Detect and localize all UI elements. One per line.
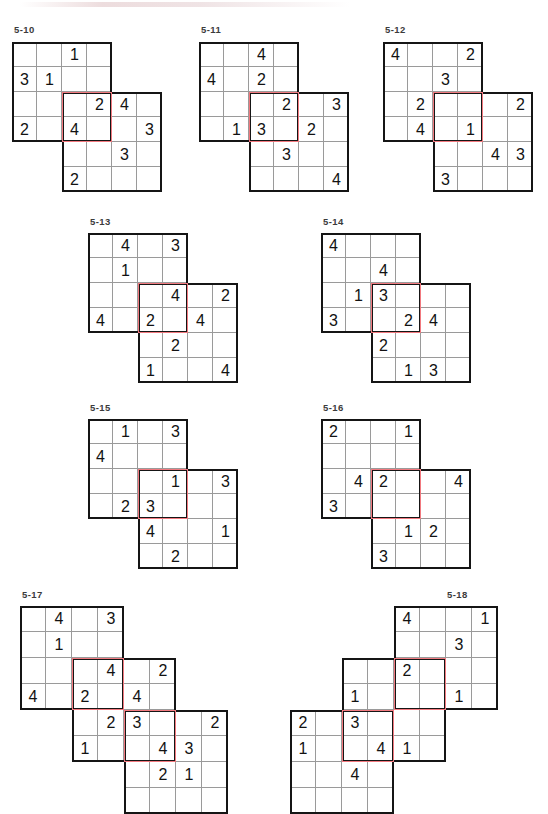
- grid-cell[interactable]: [420, 606, 446, 632]
- grid-cell[interactable]: [299, 167, 324, 192]
- grid-cell[interactable]: [124, 658, 150, 684]
- grid-cell[interactable]: [20, 684, 46, 710]
- grid-cell[interactable]: [346, 258, 371, 283]
- grid-cell[interactable]: [163, 469, 188, 494]
- grid-cell[interactable]: [88, 494, 113, 519]
- grid-cell[interactable]: [188, 333, 213, 358]
- grid-cell[interactable]: [458, 117, 483, 142]
- grid-cell[interactable]: [249, 92, 274, 117]
- grid-cell[interactable]: [321, 283, 346, 308]
- grid-cell[interactable]: [213, 333, 238, 358]
- grid-cell[interactable]: [124, 762, 150, 788]
- grid-cell[interactable]: [396, 308, 421, 333]
- grid-cell[interactable]: [87, 92, 112, 117]
- grid-cell[interactable]: [316, 788, 342, 814]
- grid-cell[interactable]: [458, 142, 483, 167]
- grid-cell[interactable]: [72, 606, 98, 632]
- grid-cell[interactable]: [472, 684, 498, 710]
- grid-cell[interactable]: [371, 283, 396, 308]
- grid-cell[interactable]: [150, 710, 176, 736]
- grid-cell[interactable]: [371, 333, 396, 358]
- grid-cell[interactable]: [368, 788, 394, 814]
- grid-cell[interactable]: [346, 308, 371, 333]
- grid-cell[interactable]: [321, 233, 346, 258]
- grid-cell[interactable]: [346, 444, 371, 469]
- grid-cell[interactable]: [383, 92, 408, 117]
- grid-cell[interactable]: [371, 419, 396, 444]
- grid-cell[interactable]: [163, 258, 188, 283]
- grid-cell[interactable]: [213, 283, 238, 308]
- grid-cell[interactable]: [20, 632, 46, 658]
- grid-cell[interactable]: [188, 283, 213, 308]
- grid-cell[interactable]: [421, 544, 446, 569]
- grid-cell[interactable]: [138, 469, 163, 494]
- grid-cell[interactable]: [342, 788, 368, 814]
- grid-cell[interactable]: [346, 494, 371, 519]
- grid-cell[interactable]: [138, 519, 163, 544]
- grid-cell[interactable]: [188, 308, 213, 333]
- grid-cell[interactable]: [420, 684, 446, 710]
- grid-cell[interactable]: [163, 444, 188, 469]
- grid-cell[interactable]: [433, 92, 458, 117]
- grid-cell[interactable]: [202, 710, 228, 736]
- grid-cell[interactable]: [176, 788, 202, 814]
- grid-cell[interactable]: [483, 142, 508, 167]
- grid-cell[interactable]: [458, 67, 483, 92]
- grid-cell[interactable]: [98, 606, 124, 632]
- grid-cell[interactable]: [420, 658, 446, 684]
- grid-cell[interactable]: [213, 308, 238, 333]
- grid-cell[interactable]: [274, 42, 299, 67]
- grid-cell[interactable]: [396, 544, 421, 569]
- grid-cell[interactable]: [394, 606, 420, 632]
- grid-cell[interactable]: [113, 469, 138, 494]
- grid-cell[interactable]: [420, 632, 446, 658]
- grid-cell[interactable]: [446, 544, 471, 569]
- grid-cell[interactable]: [20, 658, 46, 684]
- grid-cell[interactable]: [163, 358, 188, 383]
- grid-cell[interactable]: [368, 736, 394, 762]
- grid-cell[interactable]: [321, 494, 346, 519]
- grid-cell[interactable]: [138, 494, 163, 519]
- grid-cell[interactable]: [420, 736, 446, 762]
- grid-cell[interactable]: [46, 632, 72, 658]
- grid-cell[interactable]: [446, 658, 472, 684]
- grid-cell[interactable]: [113, 444, 138, 469]
- grid-cell[interactable]: [20, 606, 46, 632]
- grid-cell[interactable]: [324, 117, 349, 142]
- grid-cell[interactable]: [421, 333, 446, 358]
- grid-cell[interactable]: [346, 283, 371, 308]
- grid-cell[interactable]: [249, 167, 274, 192]
- grid-cell[interactable]: [508, 142, 533, 167]
- grid-cell[interactable]: [321, 444, 346, 469]
- grid-cell[interactable]: [176, 762, 202, 788]
- grid-cell[interactable]: [88, 308, 113, 333]
- grid-cell[interactable]: [421, 469, 446, 494]
- grid-cell[interactable]: [124, 788, 150, 814]
- grid-cell[interactable]: [199, 67, 224, 92]
- grid-cell[interactable]: [396, 358, 421, 383]
- grid-cell[interactable]: [342, 736, 368, 762]
- grid-cell[interactable]: [150, 762, 176, 788]
- grid-cell[interactable]: [88, 444, 113, 469]
- grid-cell[interactable]: [299, 117, 324, 142]
- grid-cell[interactable]: [37, 67, 62, 92]
- grid-cell[interactable]: [446, 494, 471, 519]
- grid-cell[interactable]: [150, 736, 176, 762]
- grid-cell[interactable]: [508, 167, 533, 192]
- grid-cell[interactable]: [72, 736, 98, 762]
- grid-cell[interactable]: [483, 92, 508, 117]
- grid-cell[interactable]: [458, 167, 483, 192]
- grid-cell[interactable]: [113, 419, 138, 444]
- grid-cell[interactable]: [316, 762, 342, 788]
- grid-cell[interactable]: [87, 167, 112, 192]
- grid-cell[interactable]: [224, 92, 249, 117]
- grid-cell[interactable]: [396, 258, 421, 283]
- grid-cell[interactable]: [433, 67, 458, 92]
- grid-cell[interactable]: [274, 142, 299, 167]
- grid-cell[interactable]: [396, 444, 421, 469]
- grid-cell[interactable]: [137, 117, 162, 142]
- grid-cell[interactable]: [213, 469, 238, 494]
- grid-cell[interactable]: [124, 684, 150, 710]
- grid-cell[interactable]: [62, 92, 87, 117]
- grid-cell[interactable]: [213, 544, 238, 569]
